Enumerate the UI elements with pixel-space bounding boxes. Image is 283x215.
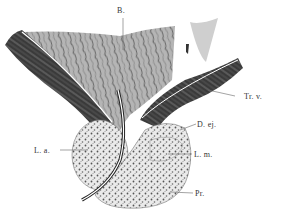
label-d-ej: D. ej. (197, 120, 216, 129)
label-l-a: L. a. (34, 146, 50, 155)
label-pr: Pr. (195, 189, 205, 198)
label-l-m: L. m. (194, 150, 213, 159)
label-b: B. (117, 6, 125, 15)
anatomical-figure: B. Tr. v. D. ej. L. a. L. m. Pr. (0, 0, 283, 215)
label-tr-v: Tr. v. (244, 92, 262, 101)
